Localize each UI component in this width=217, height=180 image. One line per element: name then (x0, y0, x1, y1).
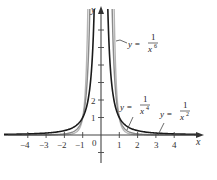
x-tick-label: 2 (135, 140, 140, 150)
annotation-x6: y = 1 x 6 (116, 32, 158, 54)
y-axis-arrow-icon (98, 6, 104, 14)
curve-x4-left (4, 9, 90, 135)
eq-exponent: 6 (154, 43, 157, 49)
x-tick-label: −3 (39, 140, 49, 150)
eq-numerator: 1 (151, 32, 156, 42)
eq-lhs: y = (119, 102, 132, 112)
x-tick-label: −1 (75, 140, 85, 150)
x-tick-label: −4 (20, 140, 30, 150)
curve-x2-left (4, 9, 94, 134)
eq-den: x (139, 106, 144, 116)
eq-numerator: 1 (143, 94, 148, 104)
curve-x2-right (108, 9, 198, 134)
chart-canvas: x y 0 −4 −3 −2 −1 1 2 3 4 1 2 y = 1 x 6 … (0, 0, 217, 180)
eq-exponent: 4 (146, 105, 149, 111)
x-tick-label: −2 (57, 140, 67, 150)
x-tick-label: 3 (154, 140, 159, 150)
eq-den: x (147, 44, 152, 54)
eq-exponent: 2 (186, 111, 189, 117)
x-axis-label: x (195, 136, 201, 147)
origin-label: 0 (92, 138, 97, 148)
y-axis-label: y (90, 4, 96, 15)
x-tick-labels: −4 −3 −2 −1 1 2 3 4 (20, 140, 177, 150)
curve-x6-left (4, 9, 88, 135)
x-tick-label: 1 (117, 140, 122, 150)
eq-lhs: y = (159, 109, 172, 119)
annotation-x2: y = 1 x 2 (158, 100, 190, 135)
x-tick-label: 4 (172, 140, 177, 150)
y-tick-label: 2 (91, 96, 96, 106)
leader-line (116, 40, 127, 43)
eq-lhs: y = (127, 39, 140, 49)
y-tick-label: 1 (91, 113, 96, 123)
eq-numerator: 1 (183, 100, 188, 110)
eq-den: x (179, 112, 184, 122)
